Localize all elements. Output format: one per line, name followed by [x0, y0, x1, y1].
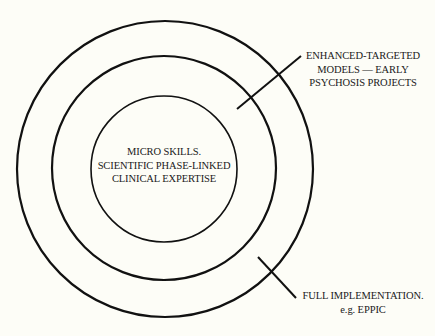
enhanced-models-label: ENHANCED-TARGETED MODELS — EARLY PSYCHOS…	[300, 49, 426, 90]
concentric-diagram: MICRO SKILLS. SCIENTIFIC PHASE-LINKED CL…	[0, 0, 435, 336]
center-label-line-2: SCIENTIFIC PHASE-LINKED	[94, 159, 234, 173]
center-label-line-3: CLINICAL EXPERTISE	[94, 172, 234, 186]
enhanced-label-line-3: PSYCHOSIS PROJECTS	[300, 76, 426, 90]
enhanced-label-line-2: MODELS — EARLY	[300, 63, 426, 77]
center-label-line-1: MICRO SKILLS.	[94, 145, 234, 159]
full-leader-line	[258, 257, 296, 298]
full-implementation-label: FULL IMPLEMENTATION. e.g. EPPIC	[298, 289, 428, 316]
enhanced-label-line-1: ENHANCED-TARGETED	[300, 49, 426, 63]
center-label: MICRO SKILLS. SCIENTIFIC PHASE-LINKED CL…	[94, 145, 234, 186]
full-label-line-2: e.g. EPPIC	[298, 303, 428, 317]
full-label-line-1: FULL IMPLEMENTATION.	[298, 289, 428, 303]
